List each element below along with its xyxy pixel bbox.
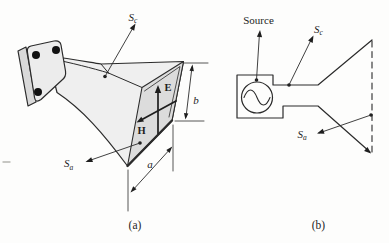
dim-a-label: a <box>147 158 153 170</box>
arrowhead-icon <box>184 113 188 120</box>
caption-a: (a) <box>129 219 142 232</box>
panel-a: E H b a Sc <box>3 11 208 232</box>
e-field-label: E <box>164 82 171 93</box>
source-leader <box>255 30 262 82</box>
bolt-icon <box>52 46 60 54</box>
sc-leader-b <box>287 36 313 87</box>
source-label: Source <box>243 14 274 26</box>
arrowhead-icon <box>257 30 262 37</box>
sa-leader-b <box>317 113 373 134</box>
arrowhead-icon <box>317 129 325 134</box>
caption-b: (b) <box>312 219 326 232</box>
sc-label-a: Sc <box>129 11 139 26</box>
sa-label-a: Sa <box>64 157 74 172</box>
panel-b: Source Sc Sa (b) <box>237 14 373 232</box>
horn-antenna-figure: E H b a Sc <box>0 0 389 243</box>
sc-label-b: Sc <box>314 23 324 38</box>
arrowhead-icon <box>308 36 313 43</box>
sine-wave-icon <box>244 90 270 105</box>
h-field-label: H <box>138 125 146 136</box>
arrowhead-icon <box>86 157 94 162</box>
dim-b-label: b <box>193 94 199 106</box>
bolt-icon <box>34 88 42 96</box>
figure-canvas: E H b a Sc <box>0 0 389 243</box>
arrowhead-icon <box>190 65 194 72</box>
bolt-icon <box>32 51 40 59</box>
sa-label-b: Sa <box>298 128 308 143</box>
